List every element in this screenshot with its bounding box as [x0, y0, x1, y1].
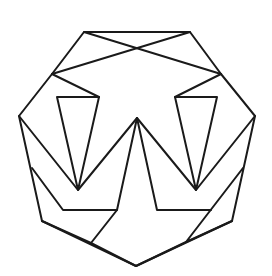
inner-segment — [91, 242, 186, 266]
inner-segment — [52, 32, 190, 74]
geometric-octagon-diagram — [0, 0, 272, 276]
inner-segment — [175, 97, 217, 190]
inner-lines — [19, 32, 255, 266]
inner-segment — [175, 74, 221, 97]
inner-segment — [19, 116, 255, 190]
inner-segment — [42, 210, 117, 243]
outer-octagon — [19, 32, 255, 266]
inner-segment — [57, 97, 99, 190]
inner-segment — [52, 74, 99, 97]
inner-segment — [84, 32, 221, 74]
